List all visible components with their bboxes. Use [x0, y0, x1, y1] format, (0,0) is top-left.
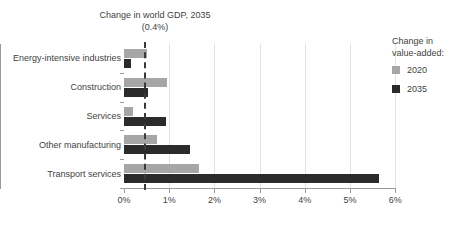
x-tick-label: 0%	[117, 195, 130, 205]
category-label: Energy-intensive industries	[3, 53, 121, 63]
bar-2035-other-manufacturing	[124, 145, 190, 154]
legend-item-label: 2020	[407, 65, 427, 75]
bar-2020-other-manufacturing	[124, 135, 157, 144]
x-tick-label: 1%	[163, 195, 176, 205]
x-tick-label: 4%	[298, 195, 311, 205]
plot-area	[124, 44, 395, 188]
x-tick-label: 2%	[208, 195, 221, 205]
x-tick-mark	[350, 189, 351, 193]
x-tick-label: 6%	[389, 195, 402, 205]
x-tick-mark	[305, 189, 306, 193]
category-axis-labels: Energy-intensive industriesConstructionS…	[0, 0, 121, 225]
category-label: Other manufacturing	[3, 140, 121, 150]
gdp-reference-line	[144, 42, 146, 190]
chart-title-line2: (0.4%)	[142, 22, 169, 32]
gridline	[214, 44, 215, 188]
legend-title: Change invalue-added:	[392, 36, 472, 59]
gridline	[305, 44, 306, 188]
y-tick-mark	[120, 130, 124, 131]
bar-2035-transport-services	[124, 174, 379, 183]
y-tick-mark	[120, 73, 124, 74]
gridline	[350, 44, 351, 188]
bar-chart: Change in world GDP, 2035(0.4%) Energy-i…	[0, 0, 472, 225]
bar-2020-energy-intensive-industries	[124, 49, 147, 58]
y-tick-mark	[120, 159, 124, 160]
legend-item-2035[interactable]: 2035	[392, 84, 472, 94]
y-axis-line	[0, 44, 1, 189]
legend-item-2020[interactable]: 2020	[392, 65, 472, 75]
x-tick-mark	[124, 189, 125, 193]
legend-items: 20202035	[392, 65, 472, 94]
x-tick-mark	[169, 189, 170, 193]
legend-swatch-icon	[392, 66, 400, 74]
x-tick-label: 3%	[253, 195, 266, 205]
bar-2020-transport-services	[124, 164, 199, 173]
gridline	[260, 44, 261, 188]
legend-title-line2: value-added:	[392, 48, 444, 58]
y-tick-mark	[120, 188, 124, 189]
legend: Change invalue-added: 20202035	[392, 36, 472, 103]
x-tick-mark	[395, 189, 396, 193]
legend-item-label: 2035	[407, 84, 427, 94]
bar-2035-energy-intensive-industries	[124, 59, 131, 68]
x-tick-label: 5%	[343, 195, 356, 205]
category-label: Services	[3, 111, 121, 121]
legend-swatch-icon	[392, 85, 400, 93]
y-tick-mark	[120, 102, 124, 103]
x-tick-mark	[214, 189, 215, 193]
legend-title-line1: Change in	[392, 36, 433, 46]
x-tick-mark	[260, 189, 261, 193]
category-label: Transport services	[3, 169, 121, 179]
bar-2020-services	[124, 107, 133, 116]
category-label: Construction	[3, 82, 121, 92]
